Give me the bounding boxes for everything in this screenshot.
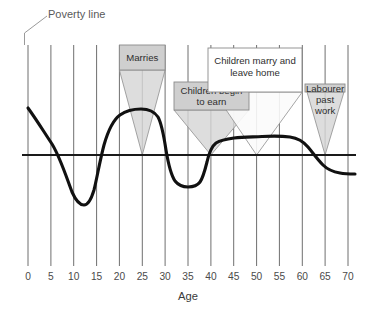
- x-axis-ticks: [28, 258, 348, 266]
- x-tick-label-45: 45: [228, 271, 240, 282]
- x-tick-label-20: 20: [114, 271, 126, 282]
- annotation-marries: Marries: [119, 45, 165, 70]
- annotation-label-labourer-past-work-line-1: past: [316, 94, 334, 105]
- annotation-label-children-marry-and-leave-home-line-1: leave home: [230, 67, 280, 78]
- annotation-label-labourer-past-work-line-2: work: [314, 105, 335, 116]
- x-axis-title: Age: [178, 290, 198, 302]
- x-tick-label-5: 5: [48, 271, 54, 282]
- x-tick-label-50: 50: [251, 271, 263, 282]
- poverty-line-caption: Poverty line: [48, 8, 105, 20]
- annotation-label-marries-line-0: Marries: [126, 52, 158, 63]
- annotation-children-marry-and-leave-home: Children marry and leave home: [208, 48, 302, 92]
- x-tick-label-35: 35: [182, 271, 194, 282]
- annotation-label-children-begin-to-earn-line-1: to earn: [197, 96, 227, 107]
- x-tick-label-55: 55: [274, 271, 286, 282]
- annotation-label-children-marry-and-leave-home-line-0: Children marry and: [214, 55, 296, 66]
- x-axis-tick-labels: 0 5 10 15 20 25 30 35 40 45 50 55 60 65 …: [25, 271, 354, 282]
- poverty-cycle-chart: Marries Children begin to earn Children …: [0, 0, 375, 309]
- annotation-label-labourer-past-work-line-0: Labourer: [306, 83, 345, 94]
- x-tick-label-70: 70: [342, 271, 354, 282]
- x-tick-label-30: 30: [159, 271, 171, 282]
- x-tick-label-60: 60: [297, 271, 309, 282]
- x-tick-label-10: 10: [68, 271, 80, 282]
- x-tick-label-0: 0: [25, 271, 31, 282]
- x-tick-label-15: 15: [91, 271, 103, 282]
- poverty-line-leader: [25, 16, 48, 45]
- x-tick-label-25: 25: [137, 271, 149, 282]
- x-tick-label-40: 40: [205, 271, 217, 282]
- x-tick-label-65: 65: [319, 271, 331, 282]
- chart-svg: Marries Children begin to earn Children …: [0, 0, 375, 309]
